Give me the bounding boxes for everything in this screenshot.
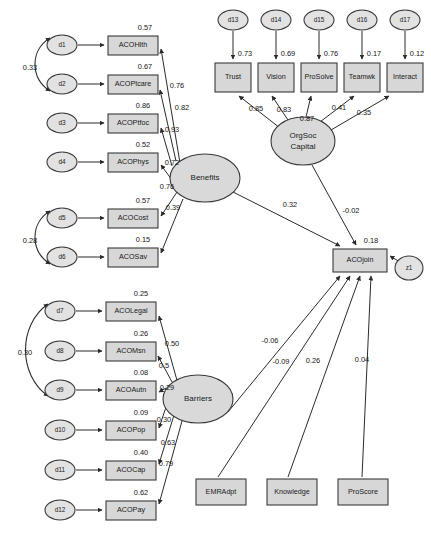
observed-acojoin[interactable]: ACOjoin — [333, 249, 387, 272]
error-term-d15[interactable]: d15 — [304, 10, 334, 30]
r2-legal: 0.25 — [134, 289, 148, 298]
error-term-d7[interactable]: d7 — [45, 301, 75, 321]
barriers-label: Barriers — [184, 394, 212, 403]
error-term-d1[interactable]: d1 — [47, 35, 77, 55]
d5-label: d5 — [58, 214, 66, 221]
l-ptfoc: 0.93 — [165, 125, 179, 134]
observed-acohlth[interactable]: ACOHlth — [108, 36, 158, 55]
p-barriers: -0.06 — [262, 336, 279, 345]
observed-acopop[interactable]: ACOPop — [106, 421, 156, 440]
d14-label: d14 — [271, 16, 282, 23]
error-term-d5[interactable]: d5 — [47, 208, 77, 228]
observed-acocap[interactable]: ACOCap — [106, 461, 156, 480]
d11-label: d11 — [55, 466, 66, 473]
l-phys: 0.72 — [165, 158, 179, 167]
observed-interact[interactable]: Interact — [387, 63, 423, 92]
correlation-labels-layer: 0.330.280.30 — [18, 63, 37, 357]
acoptfoc-label: ACOPtfoc — [117, 118, 149, 127]
d15-label: d15 — [314, 16, 325, 23]
correlation-d1-d2: 0.33 — [23, 63, 37, 72]
acojoin-label: ACOjoin — [347, 255, 374, 264]
l-cost: 0.76 — [160, 182, 174, 191]
edge-emradpt-acojoin — [218, 276, 350, 477]
observed-acocost[interactable]: ACOCost — [108, 209, 158, 228]
observed-acomsn[interactable]: ACOMsn — [106, 342, 156, 361]
observed-acoautn[interactable]: ACOAutn — [106, 381, 156, 400]
error-term-d3[interactable]: d3 — [47, 113, 77, 133]
r2-autn: 0.08 — [134, 368, 148, 377]
latent-variables-layer: Benefits Barriers OrgSoc Capital — [163, 117, 335, 423]
orgsoc-ellipse[interactable] — [271, 117, 335, 165]
observed-teamwk[interactable]: Teamwk — [344, 63, 380, 92]
acocap-label: ACOCap — [117, 465, 146, 474]
observed-acoptfoc[interactable]: ACOPtfoc — [108, 114, 158, 133]
node-benefits[interactable]: Benefits — [170, 154, 240, 202]
l-autn: 0.29 — [160, 383, 174, 392]
r2-prosolve: 0.76 — [324, 49, 338, 58]
d6-label: d6 — [58, 253, 66, 260]
error-term-d17[interactable]: d17 — [390, 10, 420, 30]
loading-arrows-benefits — [160, 49, 183, 253]
l-hlth: 0.76 — [170, 81, 184, 90]
error-term-d14[interactable]: d14 — [261, 10, 291, 30]
r2-cost: 0.57 — [136, 196, 150, 205]
error-term-d2[interactable]: d2 — [47, 74, 77, 94]
observed-acosav[interactable]: ACOSav — [108, 248, 158, 267]
r2-hlth: 0.57 — [138, 23, 152, 32]
acophys-label: ACOPhys — [117, 157, 149, 166]
node-orgsoc-capital[interactable]: OrgSoc Capital — [271, 117, 335, 165]
l-sav: 0.39 — [166, 203, 180, 212]
error-term-d8[interactable]: d8 — [45, 341, 75, 361]
correlation-d7-d9: 0.30 — [18, 348, 32, 357]
d8-label: d8 — [56, 347, 64, 354]
observed-proscore[interactable]: ProScore — [338, 479, 388, 505]
benefits-label: Benefits — [191, 173, 220, 182]
error-term-z1[interactable]: z1 — [395, 256, 423, 280]
r2-vision: 0.69 — [281, 49, 295, 58]
orgsoc-label-line1: OrgSoc — [289, 131, 316, 140]
error-term-d13[interactable]: d13 — [218, 10, 248, 30]
acopop-label: ACOPop — [117, 425, 145, 434]
d3-label: d3 — [58, 119, 66, 126]
acolegal-label: ACOLegal — [114, 306, 148, 315]
error-term-d4[interactable]: d4 — [47, 152, 77, 172]
error-term-d11[interactable]: d11 — [45, 460, 75, 480]
observed-trust[interactable]: Trust — [215, 63, 251, 92]
r2-teamwk: 0.17 — [367, 49, 381, 58]
observed-acopay[interactable]: ACOPay — [106, 501, 156, 520]
acoptcare-label: ACOPtcare — [115, 79, 151, 88]
d10-label: d10 — [55, 426, 66, 433]
error-term-d6[interactable]: d6 — [47, 247, 77, 267]
error-term-d9[interactable]: d9 — [45, 380, 75, 400]
r2-trust: 0.73 — [238, 49, 252, 58]
acomsn-label: ACOMsn — [116, 346, 145, 355]
d9-label: d9 — [56, 386, 64, 393]
d12-label: d12 — [55, 506, 66, 513]
l-interact: 0.35 — [357, 108, 371, 117]
observed-acophys[interactable]: ACOPhys — [108, 153, 158, 172]
observed-vision[interactable]: Vision — [258, 63, 294, 92]
l-pop: 0.30 — [157, 415, 171, 424]
r2-msn: 0.26 — [134, 329, 148, 338]
error-term-d10[interactable]: d10 — [45, 420, 75, 440]
error-arrows-barriers — [76, 311, 102, 510]
edge-proscore-acojoin — [362, 276, 371, 477]
r2-interact: 0.12 — [410, 49, 424, 58]
d13-label: d13 — [228, 16, 239, 23]
observed-acoptcare[interactable]: ACOPtcare — [108, 75, 158, 94]
observed-emradpt[interactable]: EMRAdpt — [196, 479, 246, 505]
error-term-d12[interactable]: d12 — [45, 500, 75, 520]
observed-acolegal[interactable]: ACOLegal — [106, 302, 156, 321]
observed-knowledge[interactable]: Knowledge — [267, 479, 317, 505]
r2-cap: 0.40 — [134, 448, 148, 457]
d4-label: d4 — [58, 158, 66, 165]
observed-prosolve[interactable]: ProSolve — [301, 63, 337, 92]
error-term-d16[interactable]: d16 — [347, 10, 377, 30]
r2-phys: 0.52 — [136, 140, 150, 149]
emradpt-label: EMRAdpt — [206, 487, 237, 496]
l-msn: 0.5 — [159, 361, 169, 370]
edge-barriers-acolegal — [159, 316, 178, 384]
edge-barriers-acojoin — [228, 276, 340, 412]
trust-label: Trust — [225, 72, 241, 81]
l-ptcare: 0.82 — [175, 103, 189, 112]
